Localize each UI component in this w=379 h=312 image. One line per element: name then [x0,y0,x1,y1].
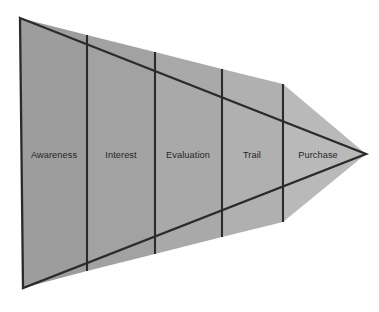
funnel-stage-trail-label: Trail [243,150,261,160]
funnel-stage-interest-label: Interest [105,150,137,160]
funnel-stage-awareness-label: Awareness [31,150,77,160]
funnel-stage-interest[interactable]: Interest [87,35,155,271]
funnel-stage-trail[interactable]: Trail [222,69,283,237]
funnel-svg: Awareness Interest Evaluation Trail Purc… [0,0,379,312]
funnel-diagram: Awareness Interest Evaluation Trail Purc… [0,0,379,312]
funnel-stage-purchase[interactable]: Purchase [283,84,366,222]
funnel-stage-purchase-label: Purchase [298,150,338,160]
funnel-stage-awareness[interactable]: Awareness [20,18,87,288]
funnel-stage-evaluation-label: Evaluation [166,150,210,160]
